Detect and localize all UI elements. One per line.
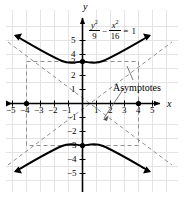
x-tick-label-5: 5: [150, 106, 155, 115]
x-tick-label-4: 4: [136, 106, 141, 115]
equation-numerator-2: x2: [110, 21, 121, 30]
vertex-top-dot: [80, 59, 85, 64]
hyperbola-figure: y2 9 − x2 16 = 1 y x Asymptotes −5 −4 −3…: [0, 0, 184, 200]
equation-right-side: 1: [130, 26, 137, 36]
y-tick-label-neg2: −2: [67, 127, 77, 136]
y-tick-label-neg5: −5: [67, 169, 77, 178]
x-tick-label-neg4: −4: [20, 106, 30, 115]
equation-operator: −: [101, 26, 108, 36]
equation-denominator-1: 9: [89, 30, 100, 40]
y-tick-label-neg3: −3: [67, 141, 77, 150]
equation-first-fraction: y2 9: [89, 21, 100, 40]
x-tick-label-neg2: −2: [48, 106, 58, 115]
equation-numerator-1: y2: [89, 21, 100, 30]
x-tick-label-3: 3: [122, 106, 127, 115]
x-tick-label-neg3: −3: [34, 106, 44, 115]
equation-second-fraction: x2 16: [109, 21, 122, 40]
y-tick-label-3: 3: [71, 57, 76, 66]
asymptote-leader-arrow: [103, 116, 109, 122]
vertex-bottom-dot: [80, 143, 85, 148]
equation-denominator-2: 16: [109, 30, 122, 40]
y-tick-label-neg4: −4: [67, 155, 77, 164]
x-tick-label-1: 1: [94, 106, 99, 115]
y-axis-label: y: [83, 2, 87, 12]
x-tick-label-2: 2: [108, 106, 113, 115]
x-axis-label: x: [167, 99, 171, 109]
equation-equals-sign: =: [122, 26, 129, 36]
y-tick-label-2: 2: [71, 71, 76, 80]
equation-label: y2 9 − x2 16 = 1: [89, 21, 137, 40]
x-tick-label-neg5: −5: [6, 106, 16, 115]
y-tick-label-5: 5: [71, 36, 76, 45]
y-tick-label-1: 1: [71, 85, 76, 94]
asymptotes-annotation: Asymptotes: [113, 83, 161, 93]
y-tick-label-neg1: −1: [67, 113, 77, 122]
